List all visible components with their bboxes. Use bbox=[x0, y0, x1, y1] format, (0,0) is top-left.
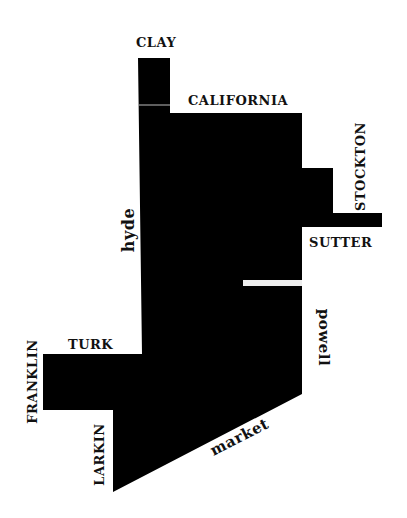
street-label-hyde: hyde bbox=[121, 208, 137, 252]
street-label-california: california bbox=[188, 94, 288, 107]
street-label-stockton: stockton bbox=[354, 122, 367, 211]
street-label-clay: clay bbox=[136, 36, 176, 49]
white-gap bbox=[243, 280, 302, 286]
street-label-sutter: sutter bbox=[309, 236, 372, 249]
street-label-powell: powell bbox=[316, 309, 331, 366]
street-label-turk: turk bbox=[68, 338, 113, 351]
street-label-larkin: larkin bbox=[93, 423, 106, 485]
district-map bbox=[0, 0, 407, 518]
street-label-franklin: franklin bbox=[26, 339, 39, 423]
